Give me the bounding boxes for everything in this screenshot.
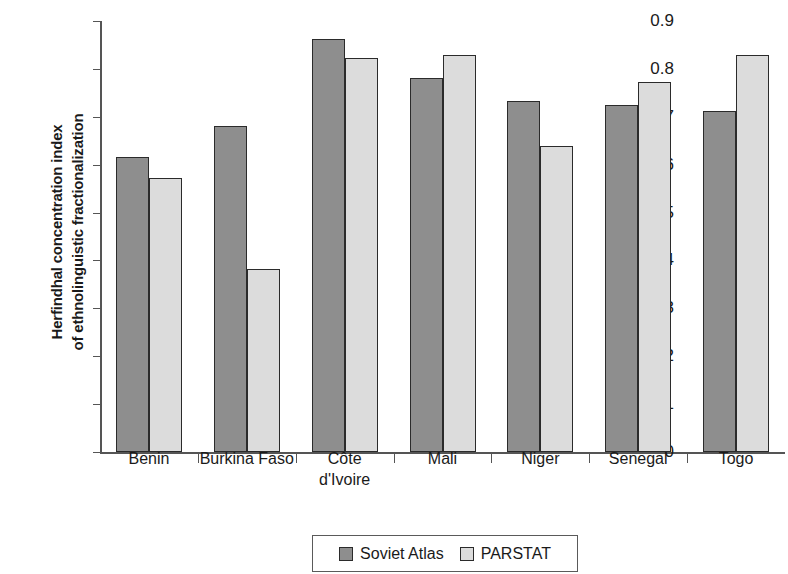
- bar-parstat: [247, 269, 280, 452]
- bar-parstat: [540, 146, 573, 452]
- y-axis-tick-label: 0.9: [628, 12, 674, 29]
- y-axis-tick: [93, 165, 100, 166]
- legend-entry-parstat: PARSTAT: [460, 546, 551, 562]
- bar-parstat: [736, 55, 769, 452]
- plot-area: 0.90.80.70.60.50.40.30.20.10: [100, 21, 785, 453]
- bar-soviet-atlas: [507, 101, 540, 452]
- legend-entry-soviet-atlas: Soviet Atlas: [339, 546, 444, 562]
- bar-parstat: [638, 82, 671, 452]
- y-axis-tick: [93, 117, 100, 118]
- bar-soviet-atlas: [605, 105, 638, 452]
- y-axis-tick: [93, 356, 100, 357]
- y-axis-tick: [93, 260, 100, 261]
- bar-soviet-atlas: [214, 126, 247, 452]
- bar-soviet-atlas: [312, 39, 345, 452]
- bar-soviet-atlas: [116, 157, 149, 452]
- y-axis-title-line-1: Herfindhal concentration index: [48, 125, 65, 340]
- y-axis-tick: [93, 213, 100, 214]
- bar-soviet-atlas: [410, 78, 443, 452]
- chart-legend: Soviet Atlas PARSTAT: [312, 535, 578, 572]
- bar-parstat: [443, 55, 476, 452]
- y-axis-tick: [93, 69, 100, 70]
- y-axis-line: [100, 21, 102, 454]
- y-axis-title: Herfindhal concentration index of ethnol…: [46, 12, 88, 452]
- y-axis-tick-label: 0.8: [628, 60, 674, 77]
- y-axis-tick: [93, 21, 100, 22]
- y-axis-title-line-2: of ethnolinguistic fractionalization: [67, 12, 88, 452]
- bar-soviet-atlas: [703, 111, 736, 452]
- x-axis-category-label: Togo: [666, 448, 788, 469]
- legend-label-parstat: PARSTAT: [481, 546, 551, 562]
- legend-swatch-parstat: [460, 547, 474, 561]
- legend-label-soviet-atlas: Soviet Atlas: [360, 546, 444, 562]
- bar-chart-figure: Herfindhal concentration index of ethnol…: [0, 0, 788, 574]
- y-axis-title-container: Herfindhal concentration index of ethnol…: [0, 0, 48, 460]
- y-axis-tick: [93, 308, 100, 309]
- bar-parstat: [149, 178, 182, 452]
- y-axis-tick: [93, 404, 100, 405]
- legend-swatch-soviet-atlas: [339, 547, 353, 561]
- bar-parstat: [345, 58, 378, 452]
